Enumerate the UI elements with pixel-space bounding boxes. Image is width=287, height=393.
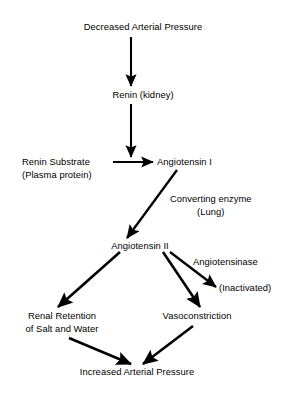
node-label: Vasoconstriction	[163, 310, 232, 321]
label-converting-enzyme: Converting enzyme (Lung)	[170, 193, 252, 218]
diagram-canvas: Decreased Arterial Pressure Renin (kidne…	[0, 0, 287, 393]
node-vasoconstriction: Vasoconstriction	[163, 310, 232, 323]
node-decreased-arterial-pressure: Decreased Arterial Pressure	[84, 21, 203, 34]
node-angiotensin-i: Angiotensin I	[157, 156, 212, 169]
label-angiotensinase: Angiotensinase	[193, 256, 258, 269]
node-renin-substrate: Renin Substrate (Plasma protein)	[22, 156, 92, 181]
node-renal-retention: Renal Retention of Salt and Water	[26, 310, 99, 335]
node-label: Renin (kidney)	[112, 89, 173, 100]
edge-label: Angiotensinase	[193, 256, 258, 267]
node-label-line1: Renin Substrate	[22, 156, 92, 169]
node-label-line2: (Plasma protein)	[22, 169, 92, 182]
node-angiotensin-ii: Angiotensin II	[111, 240, 169, 253]
node-label: (Inactivated)	[219, 282, 271, 293]
node-label-line2: of Salt and Water	[26, 323, 99, 336]
node-label: Decreased Arterial Pressure	[84, 21, 203, 32]
node-label: Angiotensin II	[111, 240, 169, 251]
edge-renal-retention-to-increased-pressure	[69, 338, 131, 364]
node-inactivated: (Inactivated)	[219, 282, 271, 295]
node-label-line1: Renal Retention	[26, 310, 99, 323]
node-increased-arterial-pressure: Increased Arterial Pressure	[80, 366, 194, 379]
node-renin-kidney: Renin (kidney)	[112, 89, 173, 102]
edge-label-line1: Converting enzyme	[170, 193, 252, 206]
node-label: Increased Arterial Pressure	[80, 366, 194, 377]
edge-label-line2: (Lung)	[170, 206, 252, 219]
edge-angiotensin-ii-to-renal-retention	[58, 252, 120, 307]
edge-vasoconstriction-to-increased-pressure	[143, 326, 193, 364]
node-label: Angiotensin I	[157, 156, 212, 167]
